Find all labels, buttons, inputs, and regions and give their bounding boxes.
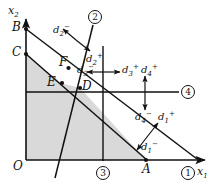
d4-minus-label: d4− <box>135 111 152 125</box>
vertex-label-D: D <box>82 80 92 92</box>
vertex-label-F: F <box>59 56 67 68</box>
vertex-label-A: A <box>142 163 151 175</box>
d3-plus-label: d3+ <box>122 64 139 78</box>
constraint-marker-3: 3 <box>96 166 110 180</box>
d1-plus-label: d1+ <box>158 111 175 125</box>
lp-goal-programming-figure: x2 x1 O B C F E D A d2− d2+ d3− d3+ d4+ … <box>0 0 220 190</box>
vertex-dot-B <box>24 27 28 31</box>
d1-minus-label: d1− <box>141 141 158 155</box>
d3-minus-label: d3− <box>77 64 94 78</box>
vertex-dot-C <box>24 52 28 56</box>
x-axis-label: x1 <box>197 166 208 180</box>
y-axis-label: x2 <box>8 5 19 19</box>
vertex-label-C: C <box>12 46 21 58</box>
d2-minus-label: d2− <box>53 24 70 38</box>
vertex-label-B: B <box>12 21 21 33</box>
constraint-marker-4: 4 <box>181 85 195 99</box>
origin-label: O <box>13 160 23 172</box>
vertex-label-E: E <box>47 76 56 88</box>
vertex-dot-E <box>60 81 64 85</box>
constraint-marker-2: 2 <box>88 10 102 24</box>
constraint-marker-1: 1 <box>181 166 195 180</box>
d4-plus-label: d4+ <box>141 64 158 78</box>
